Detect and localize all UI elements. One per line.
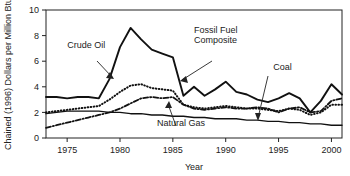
annotation-line: Composite <box>194 35 237 45</box>
y-axis-ticks: 0246810 <box>29 5 46 143</box>
coal-label: Coal <box>273 62 292 72</box>
y-axis-title: Chained (1996) Dollars per Million Btu <box>3 0 13 150</box>
x-tick-label: 1975 <box>57 145 77 155</box>
y-tick-label: 10 <box>29 5 39 15</box>
fossil-fuel-composite-label: Fossil FuelComposite <box>194 25 238 45</box>
x-axis-ticks: 197519801985199019952000 <box>57 138 341 155</box>
annotation-line: Fossil Fuel <box>194 25 238 35</box>
y-tick-label: 0 <box>34 133 39 143</box>
y-tick-label: 6 <box>34 56 39 66</box>
x-axis-title: Year <box>185 162 203 172</box>
x-tick-label: 1985 <box>163 145 183 155</box>
chart-figure: 0246810 197519801985199019952000 Crude O… <box>0 0 350 176</box>
x-tick-label: 1990 <box>216 145 236 155</box>
x-tick-label: 1995 <box>269 145 289 155</box>
crude-oil-label: Crude Oil <box>67 40 105 50</box>
x-tick-label: 1980 <box>110 145 130 155</box>
y-tick-label: 8 <box>34 31 39 41</box>
x-tick-label: 2000 <box>321 145 341 155</box>
y-tick-label: 2 <box>34 108 39 118</box>
y-tick-label: 4 <box>34 82 39 92</box>
natural-gas-label: Natural Gas <box>157 118 206 128</box>
line-chart-canvas: 0246810 197519801985199019952000 Crude O… <box>0 0 350 176</box>
